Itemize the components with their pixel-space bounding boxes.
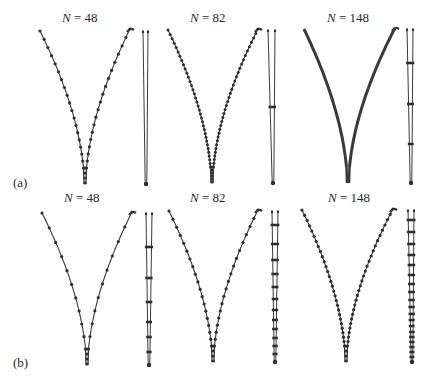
bead <box>242 58 245 61</box>
bead <box>222 295 225 298</box>
row-b: (b) N = 48 N = 82 N = 148 <box>13 190 416 370</box>
straight-chain-stick <box>142 30 149 186</box>
stick-bead <box>409 313 415 316</box>
stick-bead <box>410 356 415 359</box>
bead <box>310 230 313 233</box>
bead <box>220 302 223 305</box>
stick-bead <box>146 321 152 324</box>
stick-bead <box>409 336 415 339</box>
bead <box>85 357 88 360</box>
bead <box>83 166 86 169</box>
left-branch <box>304 29 347 167</box>
bead <box>209 338 212 341</box>
bead <box>237 71 240 74</box>
bead <box>194 273 197 276</box>
bead <box>349 322 352 325</box>
panel-title: N = 82 <box>189 10 226 25</box>
bead <box>206 143 209 146</box>
bead <box>406 29 408 31</box>
bead <box>328 275 331 278</box>
bead <box>101 93 104 96</box>
bead <box>97 108 100 111</box>
row-a: (a) N = 48 N = 82 N = 148 <box>13 10 414 190</box>
bead <box>91 322 94 325</box>
bead <box>220 120 223 123</box>
bent-chain-curve <box>38 27 134 184</box>
stick-bead <box>272 328 278 331</box>
bead <box>362 274 365 277</box>
bead <box>329 280 332 283</box>
bead <box>246 50 249 53</box>
bead <box>224 108 227 111</box>
bead <box>197 104 200 107</box>
bead <box>376 239 379 242</box>
stem <box>347 167 350 183</box>
bead <box>217 136 220 139</box>
stick-bead <box>269 106 277 109</box>
bead <box>360 279 363 282</box>
bead <box>212 162 215 165</box>
bead <box>335 299 338 302</box>
bead <box>232 84 235 87</box>
bead <box>342 336 345 339</box>
bead <box>74 124 77 127</box>
straight-chain-stick <box>407 209 416 364</box>
panel-title: N = 48 <box>61 10 98 25</box>
bead <box>208 158 211 161</box>
stick-bead <box>407 219 416 222</box>
bead <box>169 33 172 36</box>
bead <box>196 280 199 283</box>
bead <box>91 131 94 134</box>
stick-base-bead <box>144 182 148 186</box>
bead <box>350 317 353 320</box>
bead <box>229 272 232 275</box>
stick-bead <box>271 273 278 276</box>
bead <box>145 213 147 215</box>
bead <box>85 347 88 350</box>
bead <box>238 249 241 252</box>
stick-bead <box>409 325 415 328</box>
bead <box>219 124 222 127</box>
bead <box>43 38 46 41</box>
bead <box>323 260 326 263</box>
bead <box>76 131 79 134</box>
left-branch <box>40 31 84 168</box>
stick-bead <box>407 243 415 246</box>
bead <box>368 260 371 263</box>
bead <box>195 100 198 103</box>
bead <box>191 265 194 268</box>
bead <box>249 225 252 228</box>
bead <box>250 41 253 44</box>
stick-bead <box>407 231 416 234</box>
bead <box>344 349 347 352</box>
bead <box>346 340 349 343</box>
bead <box>187 76 190 79</box>
left-branch <box>169 211 212 346</box>
bead <box>334 294 337 297</box>
stick-bead <box>409 331 415 334</box>
bead <box>70 109 73 112</box>
bead <box>332 289 335 292</box>
bead <box>87 152 90 155</box>
bead <box>221 116 224 119</box>
right-branch <box>87 29 131 168</box>
bead <box>182 242 185 245</box>
bead <box>179 234 182 237</box>
bead <box>232 265 235 268</box>
bead <box>200 116 203 119</box>
bead <box>210 174 213 177</box>
bead <box>105 269 108 272</box>
bead <box>177 50 180 53</box>
bead <box>201 120 204 123</box>
bead <box>340 322 343 325</box>
bead <box>92 123 95 126</box>
bead <box>80 153 83 156</box>
bead <box>257 28 260 31</box>
bead <box>241 241 244 244</box>
bead <box>353 303 356 306</box>
bead <box>277 211 279 213</box>
bead <box>104 85 107 88</box>
bead <box>79 146 82 149</box>
bead <box>211 354 214 357</box>
bead <box>223 112 226 115</box>
